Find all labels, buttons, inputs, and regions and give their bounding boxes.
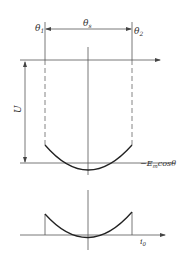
theta1-label: θ1: [35, 23, 44, 34]
commutation-diagram: θ1 θs θ2 U −Emcosθ i0: [0, 0, 189, 257]
top-plot: θ1 θs θ2 U −Emcosθ: [13, 18, 176, 175]
theta2-label: θ2: [134, 26, 143, 37]
emf-curve: [45, 145, 132, 170]
current-label: i0: [140, 237, 147, 247]
voltage-label: U: [13, 105, 23, 113]
theta-s-label: θs: [83, 18, 92, 29]
current-curve: [45, 212, 132, 238]
bottom-plot: i0: [20, 190, 165, 250]
emf-curve-label: −Emcosθ: [140, 159, 176, 169]
